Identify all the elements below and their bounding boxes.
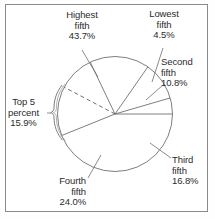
label-fourth-fifth-line1: Fourth [20,176,86,187]
label-fourth-fifth: Fourth fifth 24.0% [20,176,86,208]
label-highest-fifth-line1: Highest [46,10,118,21]
label-third-fifth: Third fifth 16.8% [172,155,214,187]
label-highest-fifth: Highest fifth 43.7% [46,10,118,42]
chart-figure: Highest fifth 43.7% Lowest fifth 4.5% Se… [0,0,215,219]
label-top-5-percent: Top 5 percent 15.9% [0,97,47,129]
label-top-5-percent-line1: Top 5 [0,97,47,108]
label-fourth-fifth-value: 24.0% [20,197,86,208]
label-third-fifth-line1: Third [172,155,214,166]
label-top-5-percent-value: 15.9% [0,118,47,129]
label-lowest-fifth-value: 4.5% [133,30,195,41]
label-highest-fifth-value: 43.7% [46,31,118,42]
label-second-fifth-line1: Second [161,57,215,68]
label-second-fifth-value: 10.8% [161,78,215,89]
label-second-fifth: Second fifth 10.8% [161,57,215,89]
label-lowest-fifth: Lowest fifth 4.5% [133,9,195,41]
label-lowest-fifth-line1: Lowest [133,9,195,20]
label-third-fifth-value: 16.8% [172,176,214,187]
